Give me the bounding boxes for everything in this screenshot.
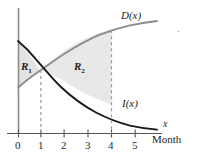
- x-tick-label-3: 3: [85, 139, 91, 151]
- x-tick-label-0: 0: [15, 139, 21, 151]
- region-label-r2: R2: [74, 60, 85, 75]
- region-label-r1: R1: [21, 60, 32, 75]
- region-label-r2-sub: 2: [81, 67, 85, 75]
- speck-artifact: [178, 31, 180, 33]
- region-label-r1-sub: 1: [28, 67, 32, 75]
- x-tick-label-4: 4: [108, 139, 114, 151]
- x-tick-label-1: 1: [38, 139, 44, 151]
- x-tick-label-5: 5: [132, 139, 138, 151]
- x-axis-variable-label: x: [163, 118, 167, 129]
- x-axis-unit-label: Month: [152, 133, 181, 145]
- figure-supply-demand-regions: D(x) I(x) R1 R2 0 1 2 3 4 5 x Month: [0, 0, 200, 161]
- curve-label-i: I(x): [122, 97, 138, 109]
- curve-label-d: D(x): [121, 9, 141, 21]
- x-tick-label-2: 2: [61, 139, 67, 151]
